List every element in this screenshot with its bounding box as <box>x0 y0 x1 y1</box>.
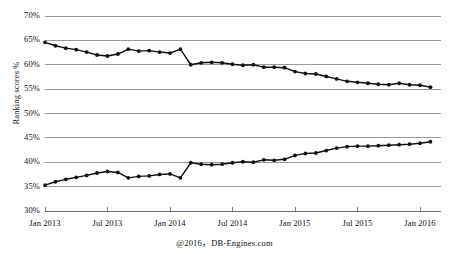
data-point <box>168 172 172 176</box>
data-point <box>397 143 401 147</box>
data-point <box>43 40 47 44</box>
data-point <box>189 63 193 67</box>
data-point <box>376 82 380 86</box>
data-point <box>231 161 235 165</box>
data-point <box>272 158 276 162</box>
data-point <box>335 77 339 81</box>
data-point <box>418 141 422 145</box>
data-point <box>345 145 349 149</box>
data-point <box>64 177 68 181</box>
data-point <box>54 44 58 48</box>
chart-container: Ranking scores % 30%35%40%45%50%55%60%65… <box>0 0 449 259</box>
data-point <box>356 80 360 84</box>
series-line-1 <box>45 142 430 185</box>
data-point <box>272 65 276 69</box>
data-point <box>158 50 162 54</box>
data-point <box>262 65 266 69</box>
data-point <box>241 63 245 67</box>
data-point <box>199 162 203 166</box>
data-point <box>304 72 308 76</box>
data-point <box>366 144 370 148</box>
data-point <box>106 170 110 174</box>
data-point <box>314 72 318 76</box>
data-point <box>168 51 172 55</box>
data-point <box>283 157 287 161</box>
data-point <box>220 61 224 65</box>
data-point <box>116 171 120 175</box>
data-point <box>366 81 370 85</box>
data-point <box>408 142 412 146</box>
data-point <box>126 176 130 180</box>
data-point <box>95 171 99 175</box>
data-point <box>387 143 391 147</box>
data-point <box>314 151 318 155</box>
data-point <box>231 62 235 66</box>
footer-credit: @2016，DB-Engines.com <box>0 236 449 248</box>
data-point <box>147 49 151 53</box>
data-point <box>262 158 266 162</box>
data-point <box>85 50 89 54</box>
data-point <box>356 144 360 148</box>
data-point <box>210 163 214 167</box>
series-1 <box>43 140 432 187</box>
data-point <box>210 60 214 64</box>
gridlines <box>45 16 441 211</box>
data-point <box>54 180 58 184</box>
data-point <box>74 48 78 52</box>
data-point <box>199 61 203 65</box>
data-point <box>179 47 183 51</box>
data-point <box>293 70 297 74</box>
data-point <box>116 52 120 56</box>
data-point <box>324 75 328 79</box>
data-point <box>429 85 433 89</box>
data-point <box>335 146 339 150</box>
data-point <box>418 83 422 87</box>
data-point <box>106 54 110 58</box>
chart-plot-area <box>0 0 449 259</box>
data-point <box>251 63 255 67</box>
data-point <box>137 174 141 178</box>
data-point <box>95 53 99 57</box>
data-point <box>137 49 141 53</box>
data-point <box>283 66 287 70</box>
data-point <box>179 176 183 180</box>
data-point <box>397 81 401 85</box>
data-point <box>293 154 297 158</box>
data-point <box>345 79 349 83</box>
data-point <box>220 162 224 166</box>
axis-tickmarks <box>45 207 420 211</box>
data-point <box>387 83 391 87</box>
data-point <box>429 140 433 144</box>
data-point <box>158 173 162 177</box>
data-point <box>251 160 255 164</box>
data-point <box>147 174 151 178</box>
data-point <box>241 160 245 164</box>
data-point <box>408 83 412 87</box>
data-point <box>324 149 328 153</box>
data-point <box>74 175 78 179</box>
data-point <box>376 144 380 148</box>
data-point <box>85 174 89 178</box>
data-point <box>126 47 130 51</box>
data-point <box>189 161 193 165</box>
data-point <box>43 183 47 187</box>
data-point <box>64 46 68 50</box>
data-point <box>304 152 308 156</box>
